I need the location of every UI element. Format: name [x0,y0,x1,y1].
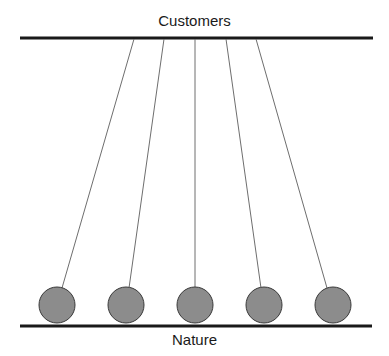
string-5 [256,39,327,288]
strings-group [62,39,327,288]
ball-3 [177,287,213,323]
nature-label: Nature [0,331,389,348]
balls-group [39,287,351,323]
ball-2 [108,287,144,323]
pendulum-diagram: Customers Nature [0,0,389,356]
ball-5 [315,287,351,323]
ball-1 [39,287,75,323]
diagram-canvas [0,0,389,356]
string-4 [226,39,261,288]
string-1 [62,39,134,288]
string-2 [129,39,164,288]
ball-4 [246,287,282,323]
